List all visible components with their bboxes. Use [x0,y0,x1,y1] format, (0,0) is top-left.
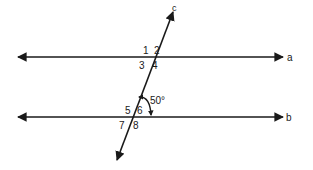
angle-1-label: 1 [143,45,149,56]
angle-3-label: 3 [139,60,145,71]
angle-5-label: 5 [125,105,131,116]
angle-measure-label: 50° [150,95,165,106]
angle-8-label: 8 [133,120,139,131]
diagram-canvas: a b c 1 2 3 4 5 6 7 8 50° [0,0,313,170]
angle-4-label: 4 [152,60,158,71]
line-a-label: a [287,52,293,63]
transversal-c-label: c [172,3,177,13]
transversal-c [117,12,173,160]
line-b-label: b [286,112,292,123]
angle-6-label: 6 [137,105,143,116]
angle-7-label: 7 [119,120,125,131]
angle-2-label: 2 [154,45,160,56]
